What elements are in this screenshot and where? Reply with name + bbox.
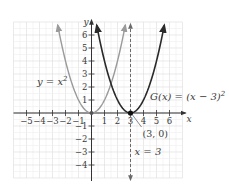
x-tick-label: 1 <box>102 116 107 126</box>
y-axis-label: y <box>83 17 90 27</box>
y-tick-label: 6 <box>82 30 87 40</box>
x-tick-label: −3 <box>46 116 59 126</box>
y-tick-label: −3 <box>75 147 88 157</box>
coordinate-plane: −5−4−3−2−1123456−4−3−2−1123456 xyy = x2G… <box>0 0 229 194</box>
y-tick-label: 1 <box>82 95 87 105</box>
vertex-point-3-0 <box>128 110 133 115</box>
x-tick-label: 4 <box>141 116 146 126</box>
y-tick-label: −1 <box>75 121 88 131</box>
x-tick-label: −2 <box>59 116 72 126</box>
label-y-equals-x-squared: y = x2 <box>36 75 68 87</box>
x-tick-label: 6 <box>167 116 172 126</box>
y-tick-label: −4 <box>75 160 88 170</box>
y-tick-label: 3 <box>82 69 87 79</box>
graph-figure: −5−4−3−2−1123456−4−3−2−1123456 xyy = x2G… <box>0 0 229 194</box>
y-tick-label: 4 <box>82 56 87 66</box>
y-tick-label: 2 <box>82 82 87 92</box>
annotation-point-3-0: (3, 0) <box>143 128 169 139</box>
x-tick-label: 5 <box>154 116 159 126</box>
y-tick-label: −2 <box>75 134 88 144</box>
y-tick-label: 5 <box>82 43 87 53</box>
vertex-point-origin <box>90 111 94 115</box>
x-tick-label: −5 <box>20 116 33 126</box>
x-axis-label: x <box>187 114 192 124</box>
label-x-equals-3: x = 3 <box>135 146 162 157</box>
label-G-of-x: G(x) = (x − 3)2 <box>150 90 226 102</box>
x-tick-label: 2 <box>115 116 120 126</box>
x-tick-label: −4 <box>33 116 46 126</box>
